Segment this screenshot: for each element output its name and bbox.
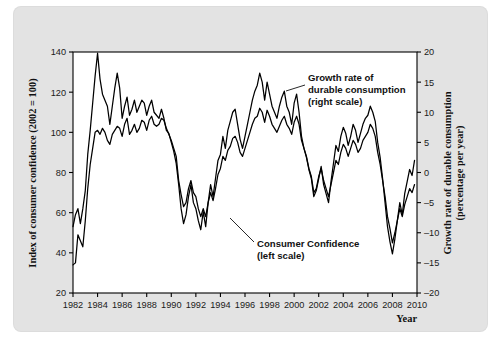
growth-annotation-line-3: (right scale) bbox=[308, 96, 362, 107]
left-tick-label: 20 bbox=[56, 288, 66, 298]
x-tick-label: 2002 bbox=[308, 300, 328, 310]
x-tick-label: 1996 bbox=[235, 300, 255, 310]
x-tick-label: 2006 bbox=[358, 300, 378, 310]
x-tick-label: 1990 bbox=[161, 300, 181, 310]
x-tick-label: 1984 bbox=[87, 300, 107, 310]
confidence-annotation-line-2: (left scale) bbox=[257, 250, 304, 261]
right-tick-label: 5 bbox=[424, 138, 429, 148]
growth-annotation-line-1: Growth rate of bbox=[308, 72, 374, 83]
dual-axis-line-chart: Index of consumer confidence (2002 = 100… bbox=[14, 7, 487, 331]
left-tick-label: 80 bbox=[56, 168, 66, 178]
x-tick-label: 1998 bbox=[259, 300, 279, 310]
x-tick-label: 1982 bbox=[63, 300, 83, 310]
confidence-annotation-line-1: Consumer Confidence bbox=[257, 238, 359, 249]
right-tick-label: 0 bbox=[424, 168, 429, 178]
right-tick-label: –15 bbox=[424, 258, 439, 268]
x-axis-title: Year bbox=[396, 313, 417, 324]
right-axis-ticks: –20–15–10–505101520 bbox=[417, 47, 439, 298]
growth-annotation-line-2: durable consumption bbox=[308, 84, 406, 95]
x-tick-label: 2000 bbox=[284, 300, 304, 310]
left-tick-label: 100 bbox=[51, 128, 66, 138]
x-tick-label: 1992 bbox=[186, 300, 206, 310]
right-tick-label: 10 bbox=[424, 108, 434, 118]
right-tick-label: –10 bbox=[424, 228, 439, 238]
x-tick-label: 1994 bbox=[210, 300, 230, 310]
left-tick-label: 140 bbox=[51, 47, 66, 57]
left-axis-ticks: 20406080100120140 bbox=[51, 47, 73, 298]
right-tick-label: 15 bbox=[424, 78, 434, 88]
x-tick-label: 2008 bbox=[382, 300, 402, 310]
right-tick-label: 20 bbox=[424, 47, 434, 57]
right-tick-label: –5 bbox=[424, 198, 434, 208]
right-tick-label: –20 bbox=[424, 288, 439, 298]
right-axis-title: Growth rate of durable consumption (perc… bbox=[442, 91, 466, 254]
left-tick-label: 60 bbox=[56, 208, 66, 218]
x-tick-label: 1986 bbox=[112, 300, 132, 310]
left-axis-title: Index of consumer confidence (2002 = 100… bbox=[27, 78, 39, 267]
left-tick-label: 120 bbox=[51, 88, 66, 98]
left-tick-label: 40 bbox=[56, 248, 66, 258]
chart-container: Index of consumer confidence (2002 = 100… bbox=[14, 7, 487, 331]
svg-text:(percentage per year): (percentage per year) bbox=[454, 126, 466, 221]
x-tick-label: 2010 bbox=[407, 300, 427, 310]
x-tick-label: 2004 bbox=[333, 300, 353, 310]
x-axis-ticks: 1982198419861988199019921994199619982000… bbox=[63, 293, 427, 310]
svg-text:Growth rate of durable consump: Growth rate of durable consumption bbox=[442, 91, 453, 254]
x-tick-label: 1988 bbox=[136, 300, 156, 310]
figure-card: Index of consumer confidence (2002 = 100… bbox=[14, 7, 487, 331]
